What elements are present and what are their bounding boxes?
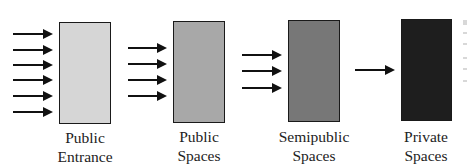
arrow-icon	[355, 69, 387, 71]
bleed-mark	[463, 20, 467, 25]
arrow-icon	[242, 54, 274, 56]
bleed-mark	[463, 43, 467, 45]
label-line2: Entrance	[35, 147, 135, 166]
zone-box-public-spaces	[173, 21, 225, 123]
label-line1: Semipublic	[264, 127, 364, 146]
arrow-icon	[13, 111, 45, 113]
stage-label: Public Entrance	[35, 128, 135, 166]
arrow-icon	[242, 70, 274, 72]
arrow-icon	[128, 95, 159, 97]
bleed-mark	[463, 68, 467, 70]
zone-box-semipublic-spaces	[288, 20, 340, 122]
label-line2: Spaces	[149, 146, 249, 165]
zone-box-private-spaces	[401, 19, 452, 121]
arrow-icon	[13, 95, 45, 97]
label-line1: Public	[35, 128, 135, 147]
label-line1: Public	[149, 127, 249, 146]
bleed-mark	[463, 57, 467, 59]
arrow-icon	[128, 79, 159, 81]
stage-label: Semipublic Spaces	[264, 127, 364, 165]
arrow-icon	[128, 63, 159, 65]
arrow-icon	[242, 87, 274, 89]
stage-label: Private Spaces	[376, 127, 470, 165]
label-line1: Private	[376, 127, 470, 146]
privacy-gradient-diagram: Public Entrance Public Spaces Semipublic…	[0, 0, 470, 168]
label-line2: Spaces	[264, 146, 364, 165]
arrow-icon	[13, 49, 45, 51]
arrow-icon	[13, 33, 45, 35]
bleed-mark	[463, 80, 467, 82]
zone-box-public-entrance	[59, 22, 111, 124]
stage-label: Public Spaces	[149, 127, 249, 165]
arrow-icon	[128, 47, 159, 49]
bleed-mark	[463, 32, 467, 34]
label-line2: Spaces	[376, 146, 470, 165]
arrow-icon	[13, 79, 45, 81]
arrow-icon	[13, 64, 45, 66]
